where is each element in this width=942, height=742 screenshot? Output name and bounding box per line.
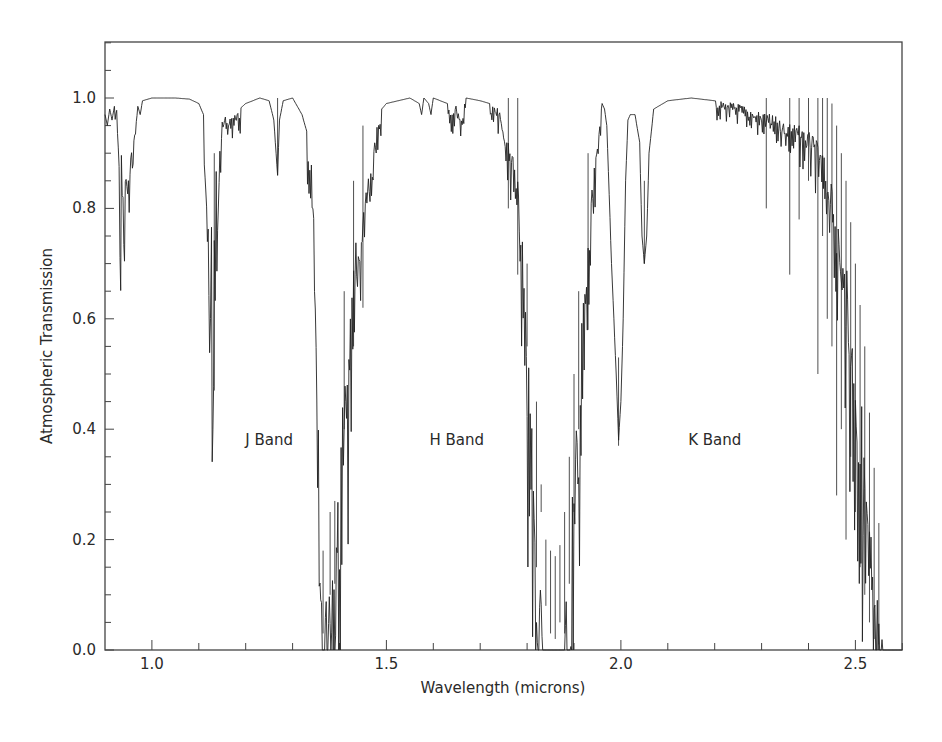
- y-tick-label: 0.4: [72, 420, 96, 438]
- y-tick-label: 0.8: [72, 199, 96, 217]
- y-tick-label: 0.2: [72, 531, 96, 549]
- band-label-h: H Band: [429, 431, 484, 449]
- band-label-k: K Band: [688, 431, 741, 449]
- y-axis-ticks: 0.00.20.40.60.81.0: [72, 43, 114, 659]
- y-axis-title: Atmospheric Transmission: [38, 248, 56, 444]
- transmission-curve: [105, 98, 902, 650]
- transmission-chart: 0.00.20.40.60.81.0 1.01.52.02.5 J BandH …: [0, 0, 942, 742]
- y-tick-label: 1.0: [72, 89, 96, 107]
- x-axis-title: Wavelength (microns): [421, 679, 586, 697]
- x-tick-label: 2.0: [609, 655, 633, 673]
- band-label-j: J Band: [244, 431, 293, 449]
- y-tick-label: 0.0: [72, 641, 96, 659]
- absorption-lines: [214, 98, 879, 644]
- x-tick-label: 1.5: [374, 655, 398, 673]
- x-tick-label: 1.0: [140, 655, 164, 673]
- y-tick-label: 0.6: [72, 310, 96, 328]
- x-tick-label: 2.5: [843, 655, 867, 673]
- x-axis-ticks: 1.01.52.02.5: [140, 640, 902, 673]
